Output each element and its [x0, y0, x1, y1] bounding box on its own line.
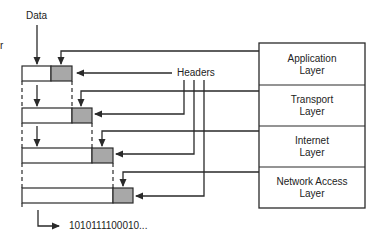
transport-layer-arrow: [81, 91, 259, 106]
data-label: Data: [26, 10, 48, 21]
edge-fragment-text: r: [0, 40, 4, 51]
svg-text:Layer: Layer: [299, 65, 325, 76]
svg-text:Layer: Layer: [299, 106, 325, 117]
svg-text:Internet: Internet: [295, 135, 329, 146]
data-segment: [22, 148, 92, 163]
packet-bar-4: [22, 188, 133, 203]
internet-header-segment: [92, 148, 113, 163]
headers-label: Headers: [177, 67, 215, 78]
packet-bar-2: [22, 108, 92, 123]
layer-internet: Internet Layer: [295, 135, 329, 158]
network-access-layer-arrow: [123, 172, 259, 186]
svg-text:Application: Application: [288, 53, 337, 64]
data-segment: [22, 108, 72, 123]
packet-bar-1: [22, 66, 72, 81]
header-pointer-2: [95, 80, 184, 114]
svg-text:Network Access: Network Access: [276, 176, 347, 187]
output-arrow: [38, 210, 59, 226]
application-layer-arrow: [61, 51, 259, 64]
svg-text:Layer: Layer: [299, 147, 325, 158]
svg-text:Layer: Layer: [299, 188, 325, 199]
network-header-segment: [113, 188, 133, 203]
output-bits-text: 1010111100010...: [69, 220, 147, 231]
data-segment: [22, 66, 51, 81]
layer-stack: Application Layer Transport Layer Intern…: [259, 43, 365, 208]
transport-header-segment: [72, 108, 92, 123]
application-header-segment: [51, 66, 72, 81]
data-segment: [22, 188, 113, 203]
encapsulation-diagram: r Data Headers 1010111100: [0, 0, 382, 240]
packet-bar-3: [22, 148, 113, 163]
internet-layer-arrow: [102, 131, 259, 146]
svg-text:Transport: Transport: [291, 94, 334, 105]
